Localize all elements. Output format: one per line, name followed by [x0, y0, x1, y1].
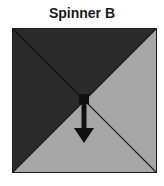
spinner-b [12, 28, 157, 173]
spinner-title: Spinner B [0, 4, 164, 22]
spinner-graphic [12, 28, 157, 173]
spinner-figure: Spinner B [0, 0, 164, 186]
